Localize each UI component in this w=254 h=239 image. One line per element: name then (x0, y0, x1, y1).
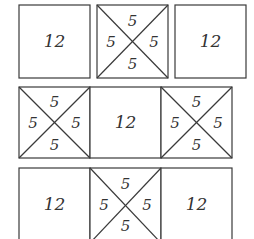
tile-value-bottom: 5 (50, 136, 60, 154)
crossed-tile: 5 5 5 5 (97, 5, 168, 78)
tile-value-top: 5 (192, 93, 202, 111)
tile-value-bottom: 5 (121, 217, 131, 235)
plain-tile: 12 (19, 168, 90, 239)
plain-tile: 12 (19, 5, 90, 78)
tile-value-right: 5 (149, 33, 159, 51)
tile-value-left: 5 (28, 114, 38, 132)
tile-value: 12 (44, 194, 66, 214)
plain-tile: 12 (161, 168, 232, 239)
tile-value-top: 5 (128, 12, 138, 30)
tile-value-top: 5 (50, 93, 60, 111)
row-2: 5 5 5 5 12 5 5 5 5 (19, 87, 232, 158)
tile-value: 12 (200, 31, 222, 51)
tile-value: 12 (186, 194, 208, 214)
plain-tile: 12 (175, 5, 246, 78)
tile-value: 12 (44, 31, 66, 51)
tile-value-right: 5 (71, 114, 81, 132)
tile-value: 12 (115, 112, 137, 132)
tile-value-right: 5 (142, 196, 152, 214)
row-3: 12 5 5 5 5 12 (19, 168, 232, 239)
tile-value-bottom: 5 (192, 136, 202, 154)
tile-value-top: 5 (121, 175, 131, 193)
crossed-tile: 5 5 5 5 (19, 87, 90, 158)
tile-value-left: 5 (170, 114, 180, 132)
tile-value-right: 5 (213, 114, 223, 132)
crossed-tile: 5 5 5 5 (90, 168, 161, 239)
tile-value-left: 5 (99, 196, 109, 214)
tile-value-left: 5 (106, 33, 116, 51)
plain-tile: 12 (90, 87, 161, 158)
row-1: 12 5 5 5 5 12 (19, 5, 246, 78)
tile-value-bottom: 5 (128, 55, 138, 73)
tile-diagram: 12 5 5 5 5 12 5 5 5 5 12 (0, 0, 254, 239)
crossed-tile: 5 5 5 5 (161, 87, 232, 158)
